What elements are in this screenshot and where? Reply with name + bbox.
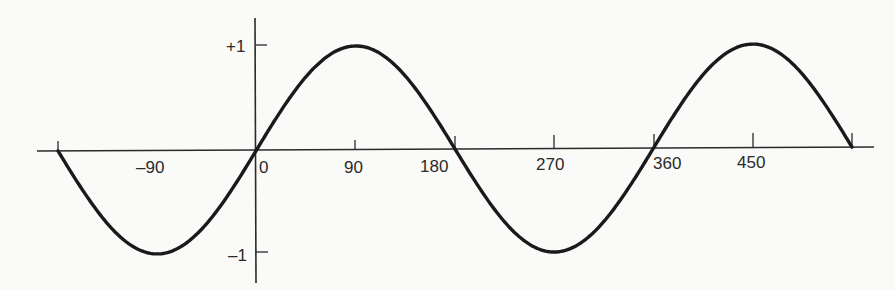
x-label-450: 450 bbox=[737, 153, 765, 172]
x-label-90: 90 bbox=[344, 158, 363, 177]
x-label-270: 270 bbox=[536, 155, 564, 174]
sine-chart: –90 0 90 180 270 360 450 +1 –1 bbox=[0, 0, 895, 290]
x-label-180: 180 bbox=[420, 157, 448, 176]
y-label-neg1: –1 bbox=[228, 246, 247, 265]
x-label-360: 360 bbox=[653, 154, 681, 173]
x-label-neg90: –90 bbox=[136, 158, 164, 177]
y-label-pos1: +1 bbox=[226, 37, 245, 56]
x-label-0: 0 bbox=[259, 158, 268, 177]
sine-curve bbox=[58, 44, 852, 254]
